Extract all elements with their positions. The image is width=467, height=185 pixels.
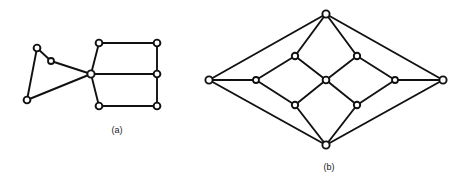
graph-edge [295,105,326,145]
graph-vertex [354,53,360,59]
graph-vertex [154,103,161,110]
graph-vertex [292,102,298,108]
graph-edge [326,105,357,145]
figure-container: (a) (b) [0,0,467,185]
graph-vertex [322,10,329,17]
graph-edge [27,48,37,100]
graph-edge [326,14,443,80]
graph-vertex [392,77,398,83]
graph-edge [91,43,99,74]
graph-edge [295,14,326,56]
graph-edge [51,61,91,74]
graph-edge [256,80,295,105]
graph-edge [326,80,357,105]
graph-vertex [154,40,161,47]
graph-vertex [87,70,94,77]
graph-a: (a) [24,40,161,135]
graph-vertex [322,141,329,148]
graph-edge [256,56,295,80]
graph-vertex [323,77,330,84]
graph-edge [295,80,326,105]
graph-edge [326,56,357,80]
graph-edge [209,80,326,145]
graph-vertex [24,97,31,104]
graph-edge [295,56,326,80]
graph-vertex [205,76,212,83]
graph-vertex [354,102,360,108]
graph-edge [326,14,357,56]
graph-edge [357,80,395,105]
graph-vertex [96,40,103,47]
caption-a: (a) [112,125,123,135]
graph-vertex [292,53,298,59]
graph-b: (b) [205,10,446,172]
graph-figure: (a) (b) [0,0,467,185]
graph-edge [91,74,99,106]
graph-vertex [439,76,446,83]
graph-vertex [253,77,259,83]
graph-edge [27,74,91,100]
graph-vertex [96,103,103,110]
graph-edge [326,80,443,145]
caption-b: (b) [324,162,335,172]
graph-edge [209,14,326,80]
graph-edge [357,56,395,80]
graph-vertex [154,71,161,78]
graph-vertex [34,45,41,52]
graph-vertex [48,58,54,64]
